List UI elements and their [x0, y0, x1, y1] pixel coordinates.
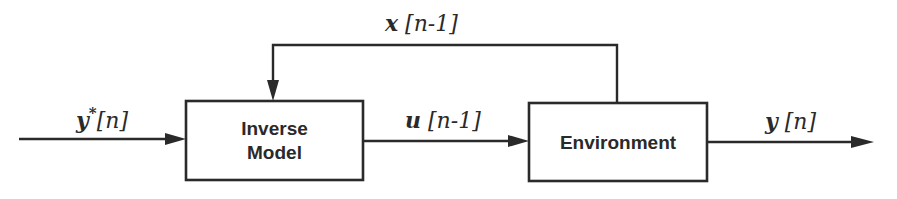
input-signal-superscript: * [89, 104, 97, 122]
environment-label: Environment [560, 132, 677, 153]
output-signal-index: [n] [778, 109, 817, 134]
block-diagram: Inverse Model Environment x [n-1] y*[n] … [0, 0, 897, 199]
control-arrowhead-icon [508, 135, 529, 147]
control-signal-index: [n-1] [421, 108, 481, 133]
feedback-signal-index: [n-1] [398, 11, 458, 36]
control-connection [363, 135, 529, 147]
control-signal-label: u [n-1] [405, 107, 481, 133]
input-signal-index: [n] [97, 108, 129, 133]
feedback-signal-var: x [384, 10, 399, 36]
feedback-signal-label: x [n-1] [384, 10, 458, 36]
feedback-arrowhead-icon [267, 80, 279, 101]
output-connection [707, 136, 874, 148]
feedback-wire [273, 45, 617, 103]
control-signal-var: u [405, 107, 421, 133]
inverse-model-label-line2: Model [247, 142, 302, 163]
inverse-model-box [186, 101, 363, 180]
input-connection [19, 133, 186, 145]
output-arrowhead-icon [851, 136, 874, 148]
inverse-model-label-line1: Inverse [241, 118, 308, 139]
input-signal-label: y*[n] [75, 104, 128, 133]
input-arrowhead-icon [165, 133, 186, 145]
inverse-model-block: Inverse Model [186, 101, 363, 180]
feedback-connection [267, 45, 617, 103]
output-signal-label: y [n] [764, 108, 817, 134]
environment-block: Environment [529, 103, 707, 181]
